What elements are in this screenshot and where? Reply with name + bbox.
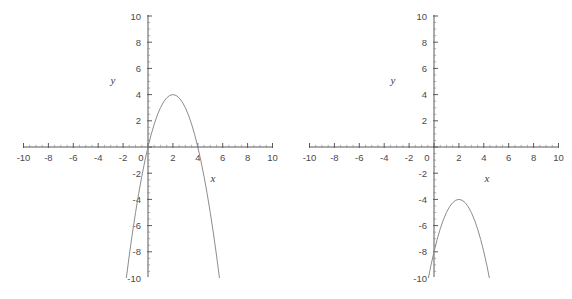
y-tick-label: -2	[133, 168, 141, 179]
x-tick-label: 10	[267, 152, 278, 163]
x-tick-label: -2	[119, 152, 127, 163]
y-tick-label: 4	[422, 89, 427, 100]
y-tick-label: -4	[419, 194, 427, 205]
x-tick-label: -8	[330, 152, 338, 163]
x-tick-label: 8	[531, 152, 536, 163]
y-tick-label: 2	[422, 115, 427, 126]
x-axis-label: x	[484, 172, 490, 184]
x-tick-label: 2	[170, 152, 175, 163]
coordinate-plane-right: -10-8-6-4-20246810-10-8-6-4-2246810 y x	[286, 0, 572, 299]
y-axis-label: y	[390, 74, 396, 86]
y-tick-label: 8	[136, 37, 141, 48]
y-tick-label: -6	[419, 220, 427, 231]
x-tick-label: -6	[355, 152, 363, 163]
y-tick-label: -8	[419, 246, 427, 257]
coordinate-plane-left: -10-8-6-4-20246810-10-8-6-4-2246810 y x	[0, 0, 286, 299]
y-tick-label: -2	[419, 168, 427, 179]
parabola-plot-right: -10-8-6-4-20246810-10-8-6-4-2246810 y x …	[286, 0, 572, 299]
x-tick-label: -2	[405, 152, 413, 163]
y-tick-label: 6	[136, 63, 141, 74]
x-tick-label: -10	[303, 152, 317, 163]
x-tick-label: 6	[506, 152, 511, 163]
parabola-curve	[428, 199, 489, 278]
y-tick-label: -10	[127, 273, 141, 284]
x-tick-label: 8	[245, 152, 250, 163]
x-tick-label: -4	[94, 152, 102, 163]
x-tick-label: -6	[69, 152, 77, 163]
y-tick-label: -10	[413, 273, 427, 284]
parabola-plot-left: -10-8-6-4-20246810-10-8-6-4-2246810 y x	[0, 0, 286, 299]
x-axis-label: x	[210, 172, 216, 184]
x-tick-label: -10	[17, 152, 31, 163]
y-tick-label: 4	[136, 89, 141, 100]
x-tick-label: 0	[138, 152, 143, 163]
x-tick-label: 6	[220, 152, 225, 163]
x-tick-label: 10	[553, 152, 564, 163]
y-tick-label: 2	[136, 115, 141, 126]
y-tick-label: 10	[130, 11, 141, 22]
x-tick-label: -8	[44, 152, 52, 163]
x-tick-label: 2	[456, 152, 461, 163]
x-tick-label: 0	[424, 152, 429, 163]
x-tick-label: 4	[481, 152, 486, 163]
y-tick-label: -8	[133, 246, 141, 257]
x-tick-label: -4	[380, 152, 388, 163]
y-tick-label: 6	[422, 63, 427, 74]
y-tick-label: 8	[422, 37, 427, 48]
y-tick-label: 10	[416, 11, 427, 22]
y-axis-label: y	[110, 74, 116, 86]
